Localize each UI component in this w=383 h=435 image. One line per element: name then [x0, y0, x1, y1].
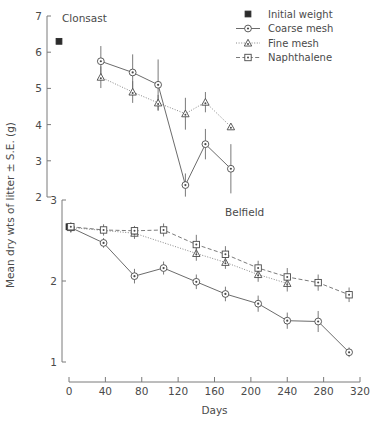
y-tick-label: 2 — [50, 275, 57, 287]
legend-item-naph[interactable]: Naphthalene — [236, 52, 332, 63]
data-point-naphthalene-center — [70, 226, 72, 228]
x-tick-label: 0 — [66, 385, 73, 397]
x-tick-label: 280 — [314, 385, 334, 397]
data-point-fine-mesh-center — [184, 114, 186, 116]
panel-title-belfield: Belfield — [225, 206, 264, 218]
series-line-coarse-mesh — [101, 61, 231, 185]
data-point-coarse-mesh-center — [257, 303, 259, 305]
y-axis-belfield: 123 — [50, 194, 66, 368]
data-point-naphthalene-center — [348, 294, 350, 296]
data-point-naphthalene-center — [195, 244, 197, 246]
panel-belfield: 123Belfield — [50, 194, 352, 368]
data-point-coarse-mesh-center — [224, 293, 226, 295]
y-axis-clonsast: 234567 — [35, 10, 51, 203]
data-point-coarse-mesh-center — [157, 84, 159, 86]
legend-marker-initial — [245, 11, 251, 17]
data-point-naphthalene-center — [133, 230, 135, 232]
legend-marker-coarse-center — [247, 27, 249, 29]
series-coarse-mesh-clonsast — [97, 46, 234, 197]
y-tick-label: 5 — [35, 82, 42, 94]
data-point-naphthalene-center — [257, 267, 259, 269]
series-coarse-mesh-belfield — [67, 223, 352, 357]
series-line-fine-mesh — [71, 228, 287, 284]
data-point-coarse-mesh-center — [162, 267, 164, 269]
data-point-naphthalene-center — [317, 282, 319, 284]
x-axis: 04080120160200240280320Days — [66, 377, 370, 416]
data-point-fine-mesh-center — [100, 77, 102, 79]
x-tick-label: 320 — [350, 385, 370, 397]
data-point-coarse-mesh-center — [195, 281, 197, 283]
litter-decomposition-chart: 234567Clonsast123Belfield040801201602002… — [0, 0, 383, 435]
legend: Initial weightCoarse meshFine meshNaphth… — [236, 9, 333, 64]
data-point-coarse-mesh-center — [132, 71, 134, 73]
data-point-naphthalene-center — [224, 253, 226, 255]
data-point-coarse-mesh-center — [133, 275, 135, 277]
data-point-coarse-mesh-center — [204, 143, 206, 145]
data-point-naphthalene-center — [286, 276, 288, 278]
data-point-fine-mesh-center — [157, 103, 159, 105]
x-tick-label: 200 — [241, 385, 261, 397]
data-point-coarse-mesh-center — [230, 168, 232, 170]
legend-item-fine[interactable]: Fine mesh — [236, 38, 319, 49]
legend-item-coarse[interactable]: Coarse mesh — [236, 23, 333, 34]
initial-weight-marker-clonsast — [56, 38, 62, 44]
x-tick-label: 240 — [277, 385, 297, 397]
series-line-fine-mesh — [101, 77, 231, 127]
legend-label-initial: Initial weight — [268, 9, 333, 20]
data-point-coarse-mesh-center — [102, 242, 104, 244]
x-axis-title: Days — [201, 404, 227, 416]
series-line-naphthalene — [71, 227, 349, 295]
legend-marker-naph-center — [247, 57, 249, 59]
data-point-coarse-mesh-center — [348, 351, 350, 353]
data-point-fine-mesh — [227, 123, 234, 130]
y-tick-label: 7 — [35, 10, 42, 22]
data-point-fine-mesh — [97, 73, 104, 80]
data-point-fine-mesh-center — [224, 262, 226, 264]
y-tick-label: 6 — [35, 46, 42, 58]
initial-weight-point — [56, 38, 62, 44]
x-tick-label: 80 — [135, 385, 148, 397]
panel-title-clonsast: Clonsast — [62, 12, 107, 24]
data-point-fine-mesh — [129, 88, 136, 95]
x-tick-label: 40 — [99, 385, 112, 397]
data-point-coarse-mesh-center — [286, 320, 288, 322]
y-axis-title-group: Mean dry wts of litter ± S.E. (g) — [4, 122, 16, 288]
data-point-fine-mesh-center — [132, 92, 134, 94]
data-point-coarse-mesh-center — [100, 60, 102, 62]
data-point-coarse-mesh-center — [184, 184, 186, 186]
legend-label-coarse: Coarse mesh — [268, 23, 333, 34]
data-point-naphthalene-center — [103, 229, 105, 231]
x-tick-label: 120 — [168, 385, 188, 397]
y-tick-label: 3 — [35, 155, 42, 167]
data-point-fine-mesh — [202, 98, 209, 105]
data-point-naphthalene-center — [163, 229, 165, 231]
data-point-fine-mesh-center — [230, 127, 232, 129]
series-line-coarse-mesh — [71, 228, 349, 353]
legend-label-naph: Naphthalene — [268, 52, 332, 63]
y-tick-label: 4 — [35, 119, 42, 131]
figure-root: 234567Clonsast123Belfield040801201602002… — [0, 0, 383, 435]
legend-item-initial[interactable]: Initial weight — [245, 9, 333, 20]
legend-marker-fine-center — [247, 43, 249, 45]
data-point-coarse-mesh-center — [317, 320, 319, 322]
data-point-fine-mesh-center — [204, 102, 206, 104]
data-point-fine-mesh — [154, 99, 161, 106]
data-point-fine-mesh — [182, 110, 189, 117]
panel-clonsast: 234567Clonsast — [35, 10, 234, 203]
y-tick-label: 1 — [50, 356, 57, 368]
series-fine-mesh-clonsast — [97, 66, 234, 129]
x-tick-label: 160 — [204, 385, 224, 397]
y-tick-label: 2 — [35, 191, 42, 203]
legend-label-fine: Fine mesh — [268, 38, 319, 49]
y-axis-title: Mean dry wts of litter ± S.E. (g) — [4, 122, 16, 288]
legend-marker-fine — [244, 39, 251, 46]
series-naphthalene-belfield — [68, 223, 353, 302]
y-tick-label: 3 — [50, 194, 57, 206]
